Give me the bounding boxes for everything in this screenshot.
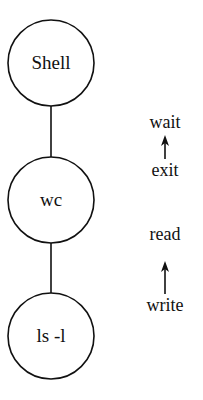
annotation-wait: wait [135, 113, 195, 131]
annotation-write: write [135, 296, 195, 314]
annotation-read: read [135, 225, 195, 243]
annotation-exit: exit [135, 161, 195, 179]
node-ls-label: ls -l [11, 326, 91, 345]
node-shell-label: Shell [11, 53, 91, 72]
node-wc-label: wc [11, 190, 91, 209]
